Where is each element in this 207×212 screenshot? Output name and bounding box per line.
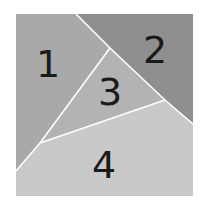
region-1-label: 1 xyxy=(36,42,60,86)
square-partition-diagram: 1 2 3 4 xyxy=(0,0,207,212)
region-2-label: 2 xyxy=(143,28,167,72)
region-4-label: 4 xyxy=(92,143,116,187)
region-3-label: 3 xyxy=(98,70,122,114)
